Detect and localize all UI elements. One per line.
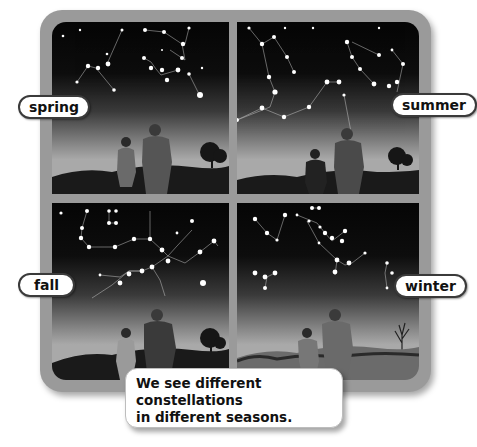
caption-line-1: We see different constellations [136,375,332,409]
child-silhouette [117,137,136,187]
tree-silhouette [200,328,226,353]
season-label-summer: summer [391,93,477,117]
fall-night-sky-illustration [52,203,229,380]
child-silhouette [305,149,327,194]
season-label-spring: spring [18,95,90,119]
tree-silhouette [388,147,413,170]
fall-panel [52,203,229,380]
season-label-fall: fall [18,273,75,297]
tree-silhouette [200,142,227,168]
caption-box: We see different constellations in diffe… [125,368,343,428]
winter-night-sky-illustration [237,203,419,380]
winter-panel [237,203,419,380]
adult-silhouette [142,124,172,194]
adult-silhouette [334,128,364,194]
season-label-winter: winter [394,274,467,298]
caption-line-2: in different seasons. [136,409,332,426]
